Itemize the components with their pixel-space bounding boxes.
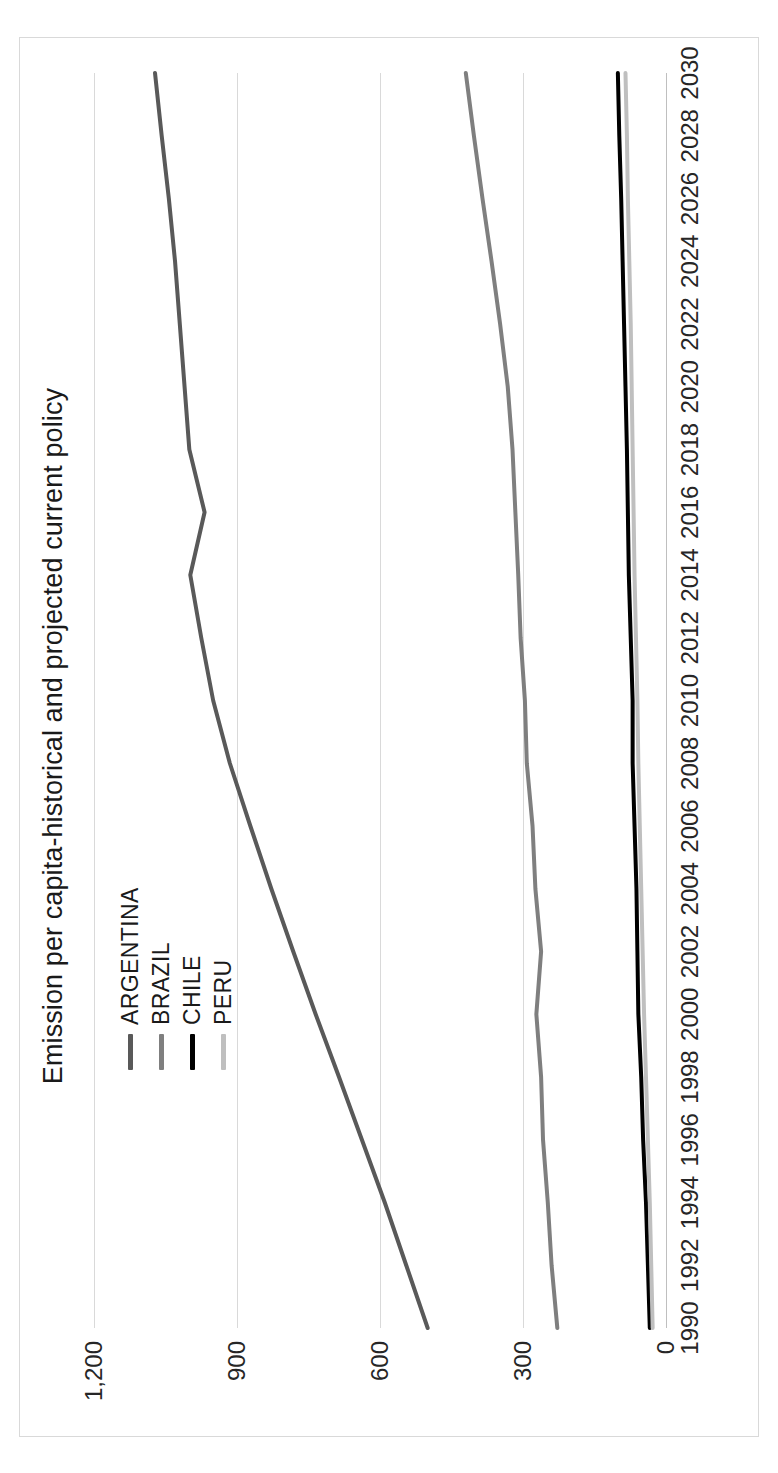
- legend-item-argentina[interactable]: ARGENTINA: [116, 887, 144, 1070]
- legend-label: CHILE: [179, 955, 206, 1025]
- legend-swatch-icon: [221, 1034, 226, 1070]
- series-line-argentina: [155, 73, 428, 1328]
- series-line-brazil: [466, 73, 558, 1328]
- legend-label: ARGENTINA: [117, 887, 144, 1025]
- legend-label: PERU: [210, 959, 237, 1025]
- rotated-chart-wrapper: Emission per capita-historical and proje…: [19, 37, 759, 1437]
- x-axis-tick-label: 2008: [676, 736, 704, 789]
- legend-item-brazil[interactable]: BRAZIL: [147, 887, 175, 1070]
- chart-legend: ARGENTINABRAZILCHILEPERU: [116, 887, 237, 1070]
- x-axis-tick-label: 1994: [676, 1175, 704, 1228]
- x-axis-tick-label: 2016: [676, 485, 704, 538]
- legend-swatch-icon: [190, 1034, 195, 1070]
- plot-area: 03006009001,200 199019921994199619982000…: [94, 73, 666, 1328]
- x-axis-tick-label: 1998: [676, 1050, 704, 1103]
- x-axis-tick-label: 2018: [676, 422, 704, 475]
- x-axis-tick-label: 1996: [676, 1113, 704, 1166]
- x-axis-tick-label: 2030: [676, 46, 704, 99]
- y-axis-tick-label: 600: [366, 1341, 394, 1433]
- x-axis-tick-label: 2024: [676, 234, 704, 287]
- series-lines-group: [94, 73, 666, 1328]
- legend-swatch-icon: [159, 1034, 164, 1070]
- legend-label: BRAZIL: [148, 942, 175, 1025]
- x-axis-tick-label: 2022: [676, 297, 704, 350]
- x-axis-tick-label: 2004: [676, 862, 704, 915]
- x-axis-tick-label: 2002: [676, 924, 704, 977]
- legend-swatch-icon: [128, 1034, 133, 1070]
- series-line-peru: [625, 73, 652, 1328]
- chart-title: Emission per capita-historical and proje…: [38, 36, 69, 1436]
- y-axis-tick-label: 1,200: [80, 1341, 108, 1433]
- x-axis-tick-label: 2020: [676, 360, 704, 413]
- x-axis-tick-label: 1990: [676, 1301, 704, 1354]
- x-axis-line: [666, 73, 667, 1328]
- x-axis-tick-label: 2010: [676, 673, 704, 726]
- chart-page: Emission per capita-historical and proje…: [0, 0, 778, 1473]
- x-axis-tick-label: 2014: [676, 548, 704, 601]
- x-axis-tick-label: 1992: [676, 1238, 704, 1291]
- series-line-chile: [618, 73, 650, 1328]
- x-axis-tick-label: 2028: [676, 109, 704, 162]
- y-axis-tick-label: 900: [223, 1341, 251, 1433]
- x-axis-tick-label: 2012: [676, 611, 704, 664]
- chart-card: Emission per capita-historical and proje…: [19, 37, 759, 1437]
- legend-item-chile[interactable]: CHILE: [178, 887, 206, 1070]
- x-axis-tick-label: 2026: [676, 171, 704, 224]
- x-axis-tick-label: 2000: [676, 987, 704, 1040]
- x-axis-tick-label: 2006: [676, 799, 704, 852]
- y-axis-tick-label: 300: [509, 1341, 537, 1433]
- legend-item-peru[interactable]: PERU: [209, 887, 237, 1070]
